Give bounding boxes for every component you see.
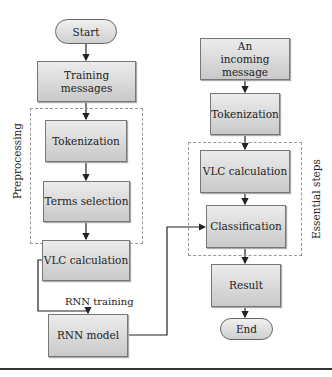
vlc-calculation-node-left: VLC calculation [42,240,130,281]
preprocessing-label: Preprocessing [11,129,23,199]
start-node: Start [55,19,117,44]
terms-selection-node: Terms selection [43,181,130,222]
bottom-rule [0,368,332,370]
rnn-model-node: RNN model [48,314,128,357]
training-messages-node: Training messages [37,61,136,102]
result-node: Result [211,264,281,307]
end-node: End [220,318,273,340]
classification-node: Classification [206,205,286,248]
rnn-training-label: RNN training [65,296,134,307]
vlc-calculation-node-right: VLC calculation [200,150,290,193]
incoming-message-node: An incoming message [200,38,290,80]
tokenization-node-right: Tokenization [210,93,280,135]
tokenization-node-left: Tokenization [45,120,127,162]
essential-steps-label: Essential steps [310,159,322,239]
